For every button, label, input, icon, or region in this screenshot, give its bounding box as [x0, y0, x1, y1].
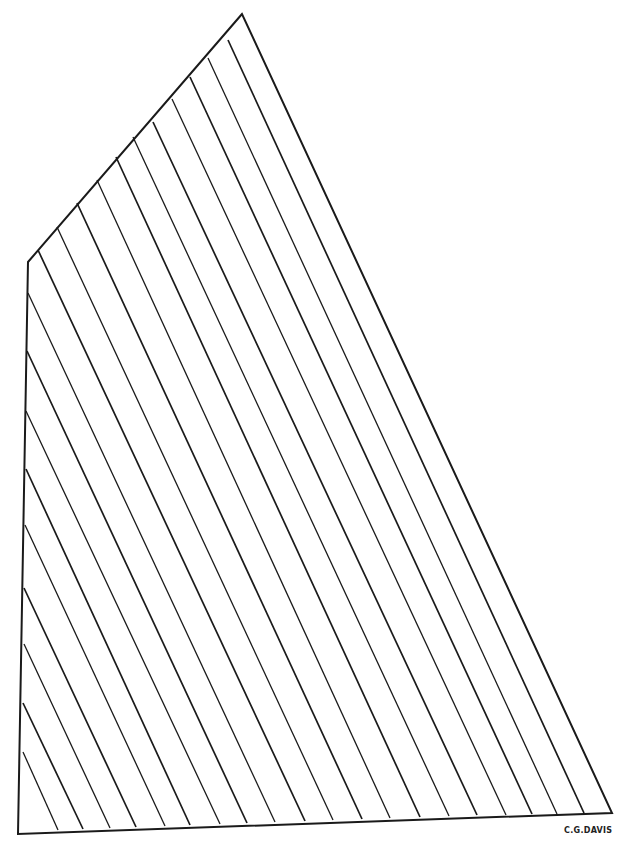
sail-diagram — [0, 0, 626, 861]
artist-signature: C.G.DAVIS — [564, 826, 612, 835]
seam-line — [27, 351, 247, 823]
seam-line — [24, 644, 110, 828]
seam-line — [97, 180, 390, 818]
seam-line — [77, 203, 362, 819]
seam-line — [228, 40, 584, 813]
seam-line — [116, 157, 420, 817]
seam-line — [190, 77, 532, 814]
seam-line — [208, 58, 557, 814]
seam-line — [153, 122, 477, 815]
seam-line — [26, 411, 220, 824]
seam-line — [25, 525, 165, 826]
seam-line — [57, 227, 333, 820]
sail-seams — [23, 40, 584, 830]
seam-line — [38, 250, 305, 821]
seam-line — [23, 703, 83, 829]
sail-outline — [18, 14, 612, 834]
